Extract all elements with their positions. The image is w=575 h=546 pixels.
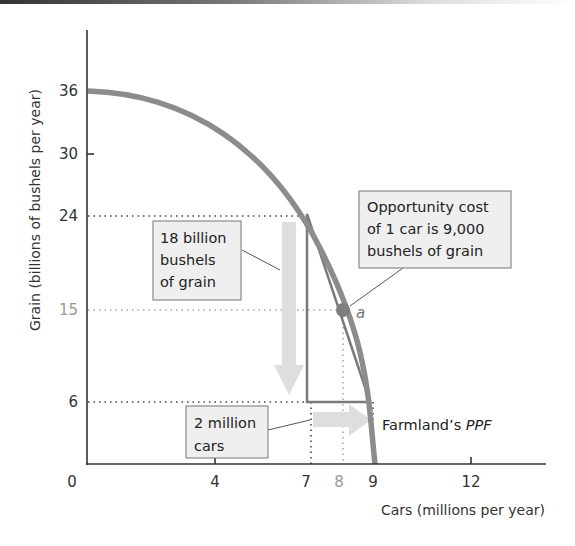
- cars-annotation-box: 2 million cars: [186, 406, 268, 458]
- grain-box-line-2: bushels: [160, 252, 216, 268]
- y-axis-title: Grain (billions of bushels per year): [27, 89, 43, 331]
- x-tick-label-8: 8: [334, 473, 344, 491]
- grain-box-line-3: of grain: [160, 274, 216, 290]
- point-a-marker: [336, 303, 350, 317]
- grain-box-line-1: 18 billion: [160, 230, 226, 246]
- right-arrow-icon: [313, 404, 371, 436]
- y-tick-label-6: 6: [68, 393, 78, 411]
- cars-box-line-1: 2 million: [194, 415, 256, 431]
- cost-box-leader: [350, 268, 403, 306]
- ppf-label-prefix: Farmland’s: [382, 417, 466, 433]
- y-tick-label-36: 36: [59, 82, 78, 100]
- x-axis-title: Cars (millions per year): [381, 502, 545, 518]
- ppf-label: Farmland’s PPF: [382, 417, 492, 433]
- opportunity-cost-box: Opportunity cost of 1 car is 9,000 bushe…: [359, 191, 511, 268]
- ppf-label-italic: PPF: [466, 417, 492, 433]
- cars-box-leader: [268, 420, 310, 430]
- y-tick-label-15: 15: [59, 301, 78, 319]
- cost-box-line-3: bushels of grain: [367, 243, 483, 259]
- down-arrow-icon: [274, 222, 304, 395]
- cars-box-line-2: cars: [194, 438, 224, 454]
- grain-box-leader: [242, 250, 280, 270]
- x-tick-label-12: 12: [461, 473, 480, 491]
- x-tick-label-4: 4: [210, 473, 220, 491]
- y-tick-label-24: 24: [59, 207, 78, 225]
- cost-box-line-1: Opportunity cost: [367, 199, 489, 215]
- ppf-chart: 36 30 24 15 6 0 4 7 8 9 12 Cars (million…: [0, 0, 575, 546]
- y-tick-label-30: 30: [59, 145, 78, 163]
- point-a-label: a: [356, 304, 365, 322]
- x-tick-label-7: 7: [301, 473, 311, 491]
- x-tick-label-9: 9: [368, 473, 378, 491]
- cost-box-line-2: of 1 car is 9,000: [367, 221, 485, 237]
- grain-annotation-box: 18 billion bushels of grain: [153, 221, 241, 300]
- origin-label: 0: [67, 473, 77, 491]
